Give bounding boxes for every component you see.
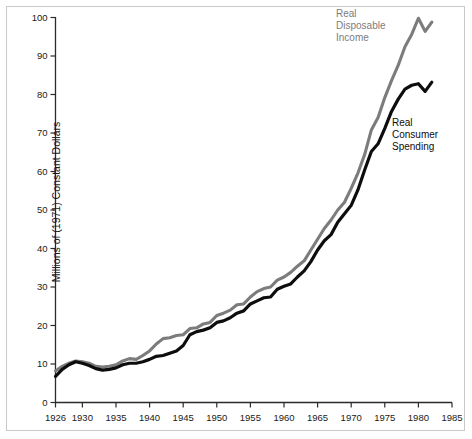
x-tick-label: 1965	[303, 412, 333, 423]
y-tick-label: 20	[26, 320, 48, 331]
y-tick-label: 10	[26, 358, 48, 369]
x-tick-label: 1975	[370, 412, 400, 423]
x-tick-marks	[56, 403, 453, 408]
y-tick-label: 0	[26, 397, 48, 408]
x-tick-label: 1985	[437, 412, 467, 423]
x-tick-label: 1980	[403, 412, 433, 423]
annotation-real-disposable-income: Real Disposable Income	[336, 8, 385, 45]
x-tick-label: 1955	[235, 412, 265, 423]
y-tick-label: 60	[26, 166, 48, 177]
y-tick-label: 50	[26, 204, 48, 215]
y-tick-label: 80	[26, 89, 48, 100]
chart-figure: 0102030405060708090100 19261930193519401…	[0, 0, 472, 439]
y-axis-title: Millions of (1971) Constant Dollars	[50, 102, 62, 302]
x-tick-label: 1960	[269, 412, 299, 423]
x-tick-label: 1935	[101, 412, 131, 423]
series-line-real-disposable-income	[56, 18, 432, 371]
y-tick-label: 70	[26, 127, 48, 138]
y-tick-label: 40	[26, 243, 48, 254]
plot-area	[0, 0, 472, 439]
x-tick-label: 1945	[168, 412, 198, 423]
series-line-real-consumer-spending	[56, 82, 432, 376]
axes	[51, 17, 453, 408]
x-tick-label: 1926	[41, 412, 71, 423]
x-tick-label: 1930	[67, 412, 97, 423]
x-tick-label: 1940	[135, 412, 165, 423]
annotation-real-consumer-spending: Real Consumer Spending	[392, 117, 438, 154]
y-tick-label: 90	[26, 50, 48, 61]
y-tick-label: 30	[26, 281, 48, 292]
data-series	[56, 18, 432, 376]
x-tick-label: 1970	[336, 412, 366, 423]
y-tick-label: 100	[26, 12, 48, 23]
x-tick-label: 1950	[202, 412, 232, 423]
